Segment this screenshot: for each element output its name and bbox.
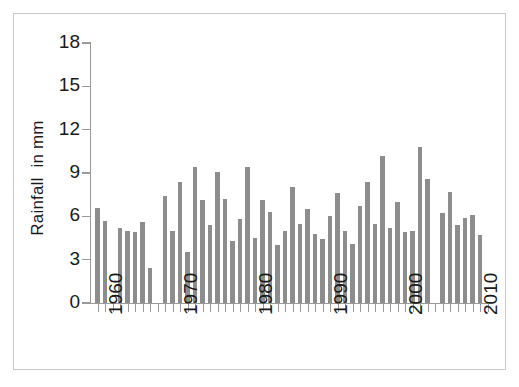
x-axis-tick-mark — [315, 304, 316, 312]
x-axis-tick-mark — [165, 304, 166, 312]
y-axis-tick-mark — [82, 302, 90, 303]
y-axis-tick-label: 3 — [36, 249, 80, 268]
bar — [163, 196, 167, 303]
x-axis-tick-mark — [383, 304, 384, 312]
x-axis-tick-mark — [435, 304, 436, 312]
bar — [215, 172, 219, 303]
x-axis-tick-mark — [465, 304, 466, 312]
bar — [455, 225, 459, 303]
x-axis-tick-mark — [375, 304, 376, 312]
y-axis-tick-mark — [82, 172, 90, 173]
bar — [358, 206, 362, 303]
x-axis-tick-mark — [443, 304, 444, 312]
bar — [133, 232, 137, 303]
x-axis-tick-mark — [368, 304, 369, 312]
x-axis-tick-mark — [428, 304, 429, 312]
x-axis-tick-mark — [98, 304, 99, 312]
x-axis-tick-mark — [450, 304, 451, 312]
y-axis-tick-labels: 0369121518 — [30, 0, 80, 387]
bar — [395, 202, 399, 303]
x-axis-tick-mark — [233, 304, 234, 312]
x-axis-tick-mark — [240, 304, 241, 312]
bar — [448, 192, 452, 303]
x-axis-tick-mark — [398, 304, 399, 312]
bar — [463, 218, 467, 303]
y-axis-tick-mark — [82, 129, 90, 130]
x-axis-tick-mark — [390, 304, 391, 312]
x-axis-tick-mark — [225, 304, 226, 312]
bar — [320, 239, 324, 303]
bar — [230, 241, 234, 303]
x-axis-tick-label: 2000 — [406, 273, 425, 315]
bar — [313, 234, 317, 303]
x-axis-tick-mark — [248, 304, 249, 312]
y-axis-tick-label: 15 — [36, 75, 80, 94]
x-axis-tick-mark — [285, 304, 286, 312]
y-axis-tick-label: 0 — [36, 292, 80, 311]
x-axis-tick-mark — [218, 304, 219, 312]
bar — [208, 225, 212, 303]
x-axis-tick-label: 1970 — [181, 273, 200, 315]
bar — [238, 219, 242, 303]
bar — [373, 224, 377, 303]
x-axis-tick-mark — [150, 304, 151, 312]
x-axis-tick-mark — [458, 304, 459, 312]
bar — [305, 209, 309, 303]
bar — [440, 213, 444, 303]
bar — [95, 208, 99, 303]
bar — [223, 199, 227, 303]
x-axis-tick-label: 1990 — [331, 273, 350, 315]
x-axis-tick-mark — [473, 304, 474, 312]
y-axis-tick-label: 6 — [36, 205, 80, 224]
y-axis-tick-label: 18 — [36, 32, 80, 51]
bar — [290, 187, 294, 303]
y-axis-tick-mark — [82, 216, 90, 217]
x-axis-tick-mark — [360, 304, 361, 312]
bar — [388, 228, 392, 303]
bar — [470, 215, 474, 303]
x-axis-tick-mark — [210, 304, 211, 312]
y-axis-tick-mark — [82, 259, 90, 260]
bar — [140, 222, 144, 303]
x-axis-tick-label: 1960 — [106, 273, 125, 315]
y-axis-tick-mark — [82, 42, 90, 43]
bar — [148, 268, 152, 303]
x-axis-tick-mark — [278, 304, 279, 312]
y-axis-tick-mark — [82, 86, 90, 87]
x-axis-tick-mark — [308, 304, 309, 312]
x-axis-tick-mark — [323, 304, 324, 312]
x-axis-tick-label: 1980 — [256, 273, 275, 315]
bar — [380, 156, 384, 303]
rainfall-bar-chart-figure: Rainfall in mm 0369121518 19601970198019… — [0, 0, 519, 387]
x-axis-tick-mark — [158, 304, 159, 312]
x-axis-tick-mark — [143, 304, 144, 312]
x-axis-tick-mark — [135, 304, 136, 312]
y-axis-tick-label: 9 — [36, 162, 80, 181]
bar — [365, 182, 369, 303]
x-axis-tick-mark — [293, 304, 294, 312]
x-axis-tick-mark — [203, 304, 204, 312]
y-axis-tick-label: 12 — [36, 119, 80, 138]
x-axis-tick-mark — [128, 304, 129, 312]
bar — [283, 231, 287, 303]
x-axis-tick-mark — [173, 304, 174, 312]
bar — [298, 224, 302, 303]
bar — [170, 231, 174, 303]
x-axis-tick-label: 2010 — [481, 273, 500, 315]
x-axis-tick-mark — [353, 304, 354, 312]
x-axis-tick-mark — [300, 304, 301, 312]
bar — [245, 167, 249, 303]
bar-series — [90, 43, 488, 303]
